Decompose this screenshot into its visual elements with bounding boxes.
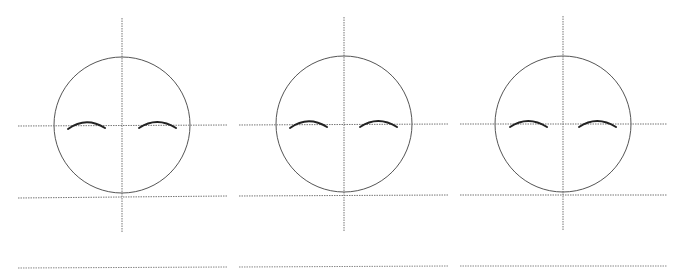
right-eyebrow xyxy=(139,122,176,128)
left-eyebrow xyxy=(290,121,327,128)
face-guide-diagram xyxy=(0,0,688,269)
bottom-line-guide xyxy=(239,266,448,267)
right-eyebrow xyxy=(360,121,397,127)
panel-1 xyxy=(18,18,227,268)
panel-3 xyxy=(460,16,667,266)
panel-2 xyxy=(239,17,448,267)
bottom-line-guide xyxy=(18,267,227,268)
